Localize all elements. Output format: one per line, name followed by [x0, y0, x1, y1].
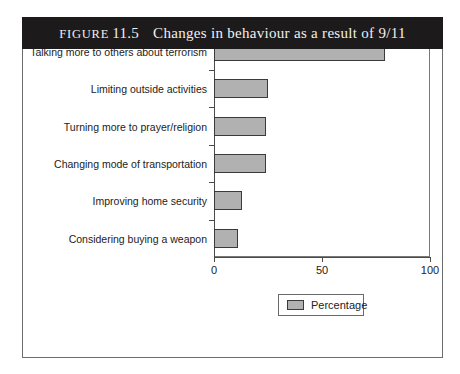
- legend-swatch-percentage: [287, 300, 304, 310]
- bar-row: [214, 108, 430, 145]
- bar-improving-home-security[interactable]: [214, 191, 242, 210]
- x-axis-tick: [214, 257, 215, 262]
- x-tick-label-50: 50: [316, 264, 328, 276]
- figure-caption-bar: Figure11.5Changes in behaviour as a resu…: [22, 17, 443, 49]
- bar-row: [214, 145, 430, 182]
- bar-changing-mode-of-transportation[interactable]: [214, 154, 266, 173]
- bar-limiting-outside-activities[interactable]: [214, 79, 268, 98]
- bar-row: [214, 70, 430, 107]
- category-label-4: Improving home security: [0, 195, 207, 207]
- bar-row: [214, 220, 430, 257]
- chart-area: Talking more to others about terrorism L…: [23, 18, 442, 357]
- figure-caption-text: Figure11.5Changes in behaviour as a resu…: [59, 25, 406, 42]
- x-axis-tick: [322, 257, 323, 262]
- bars-layer: [214, 33, 430, 257]
- figure-title: Changes in behaviour as a result of 9/11: [153, 25, 406, 41]
- x-axis-tick: [430, 257, 431, 262]
- bar-considering-buying-a-weapon[interactable]: [214, 229, 238, 248]
- category-label-3: Changing mode of transportation: [0, 158, 207, 170]
- bar-turning-more-to-prayer-religion[interactable]: [214, 117, 266, 136]
- legend: Percentage: [278, 294, 364, 316]
- x-tick-label-100: 100: [421, 264, 439, 276]
- category-label-2: Turning more to prayer/religion: [0, 121, 207, 133]
- category-label-5: Considering buying a weapon: [0, 233, 207, 245]
- figure-frame: Talking more to others about terrorism L…: [22, 17, 443, 358]
- figure-number: 11.5: [112, 25, 139, 41]
- category-label-1: Limiting outside activities: [0, 83, 207, 95]
- bar-row: [214, 182, 430, 219]
- figure-label-word: Figure: [59, 27, 109, 41]
- x-tick-label-0: 0: [211, 264, 217, 276]
- legend-label-percentage: Percentage: [311, 299, 367, 311]
